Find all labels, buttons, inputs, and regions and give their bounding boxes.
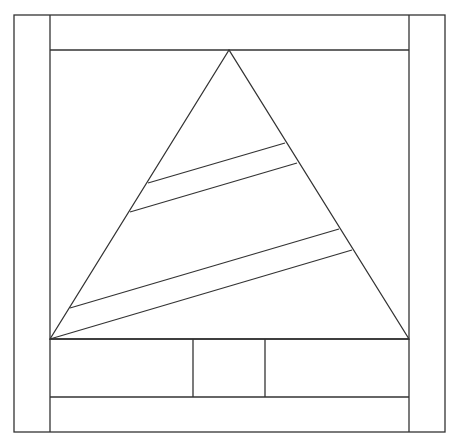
tree-stripe-4	[50, 250, 352, 339]
outer-frame	[14, 15, 445, 432]
tree-triangle	[50, 50, 409, 339]
tree-stripe-1	[148, 143, 285, 183]
quilt-block-diagram	[0, 0, 459, 445]
